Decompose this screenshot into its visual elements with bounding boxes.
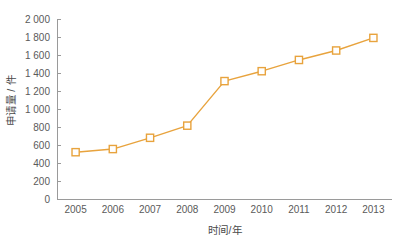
y-tick-label: 1 000 (25, 104, 50, 115)
data-point-marker (184, 122, 191, 129)
x-axis-title: 时间/年 (55, 222, 395, 237)
y-tick-label: 2 000 (25, 14, 50, 25)
y-tick-label: 600 (33, 140, 50, 151)
y-tick-label: 1 600 (25, 50, 50, 61)
data-point-marker (333, 47, 340, 54)
data-point-marker (370, 34, 377, 41)
data-point-marker (258, 68, 265, 75)
data-point-marker (221, 78, 228, 85)
y-tick-label: 1 200 (25, 86, 50, 97)
data-point-marker (295, 56, 302, 63)
y-tick-label: 800 (33, 122, 50, 133)
y-axis-title-text: 申请量 / 件 (4, 74, 19, 126)
y-tick-label: 0 (44, 194, 50, 205)
line-chart-figure: 02004006008001 0001 2001 4001 6001 8002 … (0, 0, 406, 247)
y-axis-title: 申请量 / 件 (0, 0, 22, 200)
data-point-marker (146, 134, 153, 141)
x-tick-label: 2008 (176, 204, 199, 215)
y-tick-label: 1 800 (25, 32, 50, 43)
chart-plot-area: 02004006008001 0001 2001 4001 6001 8002 … (0, 0, 406, 247)
data-point-marker (109, 145, 116, 152)
y-tick-label: 200 (33, 176, 50, 187)
x-tick-label: 2006 (102, 204, 125, 215)
x-tick-label: 2009 (213, 204, 236, 215)
series-line-path (76, 38, 374, 152)
x-tick-label: 2005 (64, 204, 87, 215)
y-tick-label: 400 (33, 158, 50, 169)
y-tick-label: 1 400 (25, 68, 50, 79)
x-tick-label: 2012 (325, 204, 348, 215)
x-tick-label: 2013 (362, 204, 385, 215)
x-tick-label: 2011 (288, 204, 310, 215)
x-tick-label: 2010 (251, 204, 274, 215)
data-point-marker (72, 149, 79, 156)
x-tick-label: 2007 (139, 204, 162, 215)
